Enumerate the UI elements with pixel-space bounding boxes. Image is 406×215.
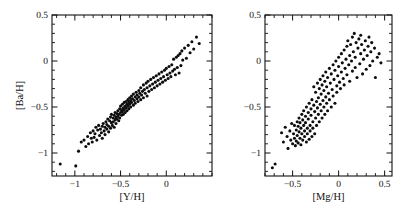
data-point bbox=[335, 84, 338, 87]
data-point bbox=[113, 126, 116, 129]
data-point bbox=[297, 125, 300, 128]
data-point bbox=[305, 140, 308, 143]
data-point bbox=[135, 91, 138, 94]
data-point bbox=[337, 65, 340, 68]
data-point bbox=[280, 131, 283, 134]
data-point bbox=[95, 139, 98, 142]
data-point bbox=[150, 88, 153, 91]
data-point bbox=[97, 124, 100, 127]
data-point bbox=[84, 145, 87, 148]
data-point bbox=[179, 64, 182, 67]
data-point bbox=[321, 99, 324, 102]
data-point bbox=[77, 150, 80, 153]
data-point bbox=[185, 57, 188, 60]
data-point bbox=[189, 51, 192, 54]
panel-left: −1−0.500.50−0.5−1[Y/H][Ba/H] bbox=[14, 11, 212, 202]
data-point bbox=[300, 132, 303, 135]
data-point bbox=[157, 79, 160, 82]
data-point bbox=[314, 91, 317, 94]
data-point bbox=[303, 129, 306, 132]
data-point bbox=[307, 117, 310, 120]
data-point bbox=[137, 95, 140, 98]
data-point bbox=[334, 59, 337, 62]
data-point bbox=[374, 76, 377, 79]
data-point bbox=[312, 85, 315, 88]
data-point bbox=[170, 63, 173, 66]
y-tick-label: 0 bbox=[43, 57, 48, 67]
data-point bbox=[146, 80, 149, 83]
data-point bbox=[289, 139, 292, 142]
plot-frame bbox=[265, 15, 392, 176]
data-point bbox=[183, 47, 186, 50]
x-tick-label: 0.5 bbox=[379, 180, 391, 190]
data-point bbox=[174, 73, 177, 76]
data-point bbox=[137, 89, 140, 92]
data-point bbox=[293, 137, 296, 140]
data-point bbox=[331, 88, 334, 91]
data-point bbox=[146, 86, 149, 89]
data-point bbox=[152, 76, 155, 79]
data-point bbox=[155, 74, 158, 77]
data-point bbox=[371, 59, 374, 62]
data-point bbox=[305, 105, 308, 108]
data-point bbox=[343, 48, 346, 51]
data-point bbox=[317, 96, 320, 99]
data-point bbox=[349, 43, 352, 46]
data-point bbox=[298, 116, 301, 119]
data-point bbox=[134, 102, 137, 105]
data-point bbox=[343, 83, 346, 86]
y-tick-label: 0 bbox=[256, 57, 261, 67]
data-point bbox=[359, 52, 362, 55]
data-point bbox=[310, 135, 313, 138]
data-point bbox=[321, 74, 324, 77]
x-tick-label: −1 bbox=[70, 180, 80, 190]
data-point bbox=[105, 128, 108, 131]
x-axis-label: [Y/H] bbox=[119, 191, 144, 202]
data-point bbox=[151, 82, 154, 85]
data-point bbox=[147, 90, 150, 93]
data-point bbox=[293, 124, 296, 127]
data-point bbox=[348, 80, 351, 83]
data-point bbox=[301, 139, 304, 142]
data-point bbox=[100, 131, 103, 134]
data-point bbox=[162, 75, 165, 78]
data-point bbox=[160, 70, 163, 73]
data-point bbox=[321, 83, 324, 86]
data-point bbox=[308, 138, 311, 141]
data-point bbox=[313, 132, 316, 135]
data-point bbox=[335, 91, 338, 94]
data-point bbox=[187, 44, 190, 47]
data-point bbox=[366, 54, 369, 57]
data-point bbox=[167, 65, 170, 68]
data-point bbox=[332, 63, 335, 66]
data-point bbox=[309, 107, 312, 110]
data-point bbox=[350, 59, 353, 62]
x-tick-label: 0 bbox=[336, 180, 341, 190]
data-point bbox=[271, 166, 274, 169]
data-point bbox=[376, 56, 379, 59]
data-point bbox=[164, 79, 167, 82]
data-point bbox=[117, 119, 120, 122]
data-point bbox=[165, 67, 168, 70]
data-point bbox=[330, 72, 333, 75]
data-point bbox=[103, 133, 106, 136]
data-point bbox=[364, 39, 367, 42]
data-point bbox=[306, 127, 309, 130]
data-point bbox=[379, 61, 382, 64]
data-point bbox=[274, 162, 277, 165]
data-point bbox=[297, 141, 300, 144]
data-point bbox=[129, 105, 132, 108]
data-point bbox=[339, 87, 342, 90]
y-tick-label: −1 bbox=[251, 149, 261, 159]
data-point bbox=[173, 68, 176, 71]
data-point bbox=[312, 104, 315, 107]
data-point bbox=[149, 78, 152, 81]
data-point bbox=[74, 164, 77, 167]
data-point bbox=[176, 66, 179, 69]
data-point bbox=[302, 109, 305, 112]
data-point bbox=[86, 135, 89, 138]
data-point bbox=[82, 139, 85, 142]
figure-container: −1−0.500.50−0.5−1[Y/H][Ba/H]−0.500.50.50… bbox=[0, 0, 406, 215]
data-point bbox=[142, 96, 145, 99]
data-point bbox=[337, 56, 340, 59]
